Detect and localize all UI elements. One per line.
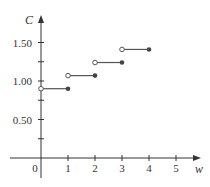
x-axis-label: w	[195, 162, 203, 176]
y-tick-label: 1.50	[13, 37, 33, 49]
y-tick-label: 1.00	[13, 75, 33, 87]
open-endpoint-icon	[66, 73, 71, 78]
open-endpoint-icon	[39, 86, 44, 91]
open-endpoint-icon	[93, 60, 98, 65]
x-tick-label: 3	[119, 162, 125, 174]
y-axis-label: C	[25, 13, 34, 27]
x-tick-label: 1	[65, 162, 71, 174]
step-series	[39, 47, 152, 91]
x-axis-arrow-icon	[193, 155, 201, 161]
x-tick-label: 4	[146, 162, 152, 174]
x-tick-label: 0	[32, 162, 38, 174]
x-tick-label: 2	[92, 162, 98, 174]
closed-endpoint-icon	[147, 47, 152, 52]
y-tick-label: 0.50	[13, 114, 33, 126]
axes	[10, 15, 201, 178]
chart-svg: 0123450.501.001.50Cw	[0, 0, 210, 187]
open-endpoint-icon	[120, 47, 125, 52]
y-axis-arrow-icon	[38, 15, 44, 23]
closed-endpoint-icon	[66, 86, 71, 91]
closed-endpoint-icon	[93, 73, 98, 78]
step-function-chart: 0123450.501.001.50Cw	[0, 0, 210, 187]
x-tick-label: 5	[173, 162, 179, 174]
closed-endpoint-icon	[120, 60, 125, 65]
